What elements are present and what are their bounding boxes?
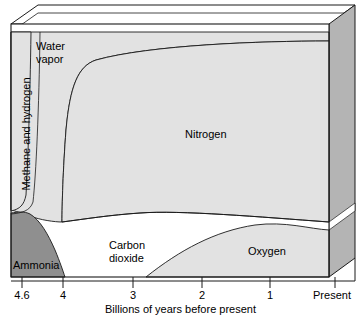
tick-label-1: 1 xyxy=(250,289,290,301)
label-carbon-dioxide-line1: Carbon xyxy=(109,239,145,251)
x-axis-ticks xyxy=(22,277,335,288)
tick-label-2: 2 xyxy=(182,289,222,301)
label-oxygen: Oxygen xyxy=(248,245,286,257)
label-ammonia: Ammonia xyxy=(13,259,59,271)
label-water-vapor-line1: Water xyxy=(36,40,65,52)
label-water-vapor-line2: vapor xyxy=(36,53,64,65)
x-axis-title: Billions of years before present xyxy=(0,303,361,315)
label-carbon-dioxide-line2: dioxide xyxy=(109,252,144,264)
atmosphere-composition-figure: Methane and hydrogen Water vapor Nitroge… xyxy=(0,0,361,315)
box-right-face xyxy=(329,5,355,277)
label-methane-and-hydrogen: Methane and hydrogen xyxy=(20,64,32,204)
tick-label-4-6: 4.6 xyxy=(2,289,42,301)
tick-label-present: Present xyxy=(303,289,361,301)
tick-label-3: 3 xyxy=(113,289,153,301)
label-nitrogen: Nitrogen xyxy=(185,128,227,140)
tick-label-4: 4 xyxy=(43,289,83,301)
